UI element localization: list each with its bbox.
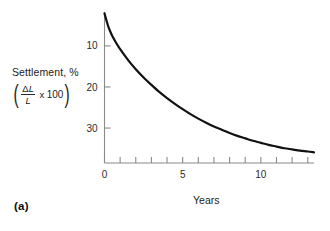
x-tick-label: 5	[180, 169, 186, 180]
x-tick-marks	[105, 157, 308, 163]
x-tick-label: 0	[102, 169, 108, 180]
x-tick-labels: 0510	[102, 169, 267, 180]
y-tick-label: 10	[86, 40, 98, 51]
y-tick-label: 20	[86, 82, 98, 93]
y-tick-labels: 102030	[86, 40, 98, 133]
settlement-vs-years-chart: 0510 102030 Years	[0, 0, 330, 231]
x-axis-title: Years	[193, 194, 219, 206]
axes-group	[105, 12, 315, 163]
settlement-curve	[105, 13, 315, 152]
y-tick-label: 30	[86, 123, 98, 134]
y-tick-marks	[105, 46, 111, 128]
x-tick-label: 10	[255, 169, 267, 180]
figure-panel: Settlement, % ( ΔL L x 100 ) (a) 0510 10…	[0, 0, 330, 231]
